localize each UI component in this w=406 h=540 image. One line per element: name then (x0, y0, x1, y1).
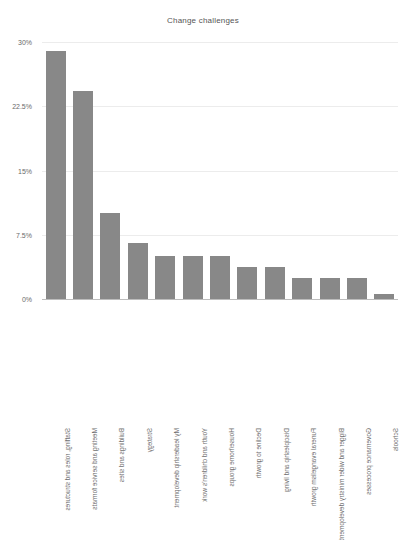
x-tick-label: Discipleship and living (283, 428, 290, 492)
bar[interactable] (210, 256, 230, 299)
bar[interactable] (183, 256, 203, 299)
x-label-slot: Discipleship and living (261, 302, 288, 432)
x-tick-label: Schools (392, 428, 399, 451)
x-label-slot: Governance processes (343, 302, 370, 432)
bar-slot (97, 42, 124, 299)
bar[interactable] (100, 213, 120, 299)
bar-slot (42, 42, 69, 299)
bar-slot (289, 42, 316, 299)
bar-slot (124, 42, 151, 299)
bar-slot (234, 42, 261, 299)
x-tick-label: Bigger and wider ministry development (338, 428, 345, 540)
x-label-slot: Bigger and wider ministry development (316, 302, 343, 432)
bar-slot (261, 42, 288, 299)
x-tick-label: Decline to growth (255, 428, 262, 478)
bar-slot (152, 42, 179, 299)
x-label-slot: Decline to growth (234, 302, 261, 432)
x-label-slot: My leadership development (152, 302, 179, 432)
x-axis-line (42, 299, 398, 300)
x-label-slot: Buildings and sites (97, 302, 124, 432)
y-tick-label: 30% (0, 39, 32, 46)
x-tick-label: Funeral evangelism growth (310, 428, 317, 506)
bar[interactable] (265, 267, 285, 299)
x-tick-label: My leadership development (173, 428, 180, 508)
x-label-slot: Strategy (124, 302, 151, 432)
x-tick-label: House/home groups (228, 428, 235, 487)
x-label-slot: Funeral evangelism growth (289, 302, 316, 432)
x-label-slot: Meeting and service formats (69, 302, 96, 432)
x-label-slot: Youth and children's work (179, 302, 206, 432)
x-tick-label: Buildings and sites (118, 428, 125, 482)
x-tick-label: Governance processes (365, 428, 372, 495)
bar-slot (316, 42, 343, 299)
bar[interactable] (292, 278, 312, 299)
bar[interactable] (128, 243, 148, 299)
bar-slot (179, 42, 206, 299)
bar-slot (206, 42, 233, 299)
x-tick-label: Meeting and service formats (91, 428, 98, 510)
bar[interactable] (347, 278, 367, 299)
bar-slot (343, 42, 370, 299)
bar[interactable] (237, 267, 257, 299)
x-tick-label: Youth and children's work (201, 428, 208, 502)
bar[interactable] (46, 51, 66, 299)
bar[interactable] (320, 278, 340, 299)
y-tick-label: 0% (0, 296, 32, 303)
bar[interactable] (73, 91, 93, 299)
y-tick-label: 15% (0, 167, 32, 174)
x-label-slot: Staffing, roles and structures (42, 302, 69, 432)
bar-slot (371, 42, 398, 299)
chart-title: Change challenges (0, 16, 406, 25)
bar-series (42, 42, 398, 299)
bar-slot (69, 42, 96, 299)
bar[interactable] (155, 256, 175, 299)
y-tick-label: 22.5% (0, 103, 32, 110)
y-tick-label: 7.5% (0, 231, 32, 238)
x-axis-tick-labels: Staffing, roles and structuresMeeting an… (42, 302, 398, 432)
x-label-slot: House/home groups (206, 302, 233, 432)
plot-area (42, 42, 398, 299)
x-tick-label: Staffing, roles and structures (64, 428, 71, 511)
x-label-slot: Schools (371, 302, 398, 432)
